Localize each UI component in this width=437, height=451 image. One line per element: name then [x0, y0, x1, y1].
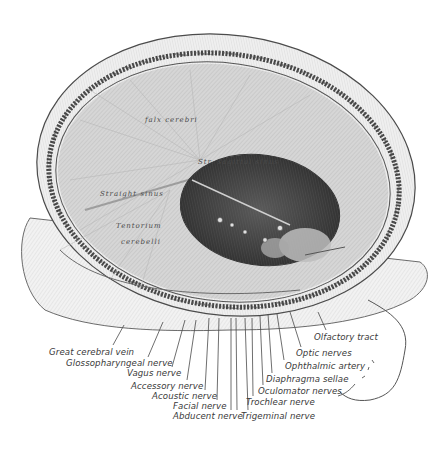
label-great-cerebral-vein: Great cerebral vein	[49, 348, 134, 357]
label-facial-nerve: Facial nerve	[173, 402, 227, 411]
inner-label-falx-cerebri: falx cerebri	[145, 116, 198, 124]
leader-line	[113, 325, 124, 345]
label-trigeminal-nerve: Trigeminal nerve	[241, 412, 315, 421]
inner-label-straight-sinus: Straight sinus	[100, 190, 164, 198]
label-oculomator-nerves: Oculomator nerves	[258, 387, 342, 396]
label-ophthalmic-artery: Ophthalmic artery	[285, 362, 365, 371]
label-abducent-nerve: Abducent nerve	[173, 412, 243, 421]
leader-line	[236, 318, 237, 410]
inner-label-cerebelli: cerebelli	[121, 238, 161, 246]
label-vagus-nerve: Vagus nerve	[127, 369, 181, 378]
label-diaphragma-sellae: Diaphragma sellae	[266, 375, 349, 384]
label-acoustic-nerve: Acoustic nerve	[152, 392, 217, 401]
skull-dura-illustration	[0, 0, 437, 451]
label-optic-nerves: Optic nerves	[296, 349, 352, 358]
inner-label-str-sagittal-sinus: Str. sagittal sinus	[198, 158, 279, 166]
label-glossopharyngeal-nerve: Glossopharyngeal nerve	[66, 359, 173, 368]
label-olfactory-tract: Olfactory tract	[314, 333, 378, 342]
label-trochlear-nerve: Trochlear nerve	[246, 398, 315, 407]
inner-label-tentorium: Tentorium	[116, 222, 162, 230]
label-accessory-nerve: Accessory nerve	[131, 382, 203, 391]
anatomical-figure: falx cerebriTentoriumcerebelliStr. sagit…	[0, 0, 437, 451]
